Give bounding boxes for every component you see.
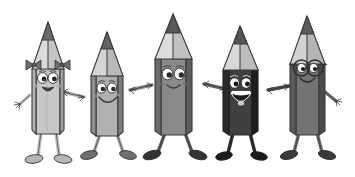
tongue-4	[238, 100, 244, 105]
pupil-left-3	[167, 72, 172, 77]
pencil-characters-illustration	[0, 0, 355, 177]
pupil-left-2	[101, 87, 106, 92]
body-left-facet-4	[223, 68, 229, 135]
body-side-facet-1	[60, 67, 64, 134]
body-left-facet-2	[91, 74, 96, 136]
body-2	[91, 74, 123, 136]
cheek-right-1	[56, 84, 61, 87]
cheek-right-2	[116, 93, 121, 96]
pupil-right-2	[111, 87, 116, 92]
body-left-facet-3	[155, 57, 161, 135]
pupil-right-1	[52, 77, 57, 82]
pupil-right-3	[179, 72, 184, 77]
body-3	[155, 57, 192, 135]
cheek-left-1	[33, 84, 38, 87]
body-left-facet-1	[32, 67, 36, 134]
pupil-right-5	[313, 67, 317, 71]
pupil-left-5	[301, 67, 305, 71]
body-side-facet-3	[186, 57, 192, 135]
cheek-left-2	[93, 94, 98, 97]
cheek-left-3	[160, 82, 165, 85]
body-side-facet-4	[252, 68, 258, 135]
pupil-right-4	[245, 82, 250, 87]
body-side-facet-2	[118, 74, 123, 136]
illustration-canvas	[0, 0, 355, 177]
cheek-right-3	[183, 82, 188, 85]
pupil-left-1	[42, 77, 47, 82]
pupil-left-4	[234, 82, 239, 87]
